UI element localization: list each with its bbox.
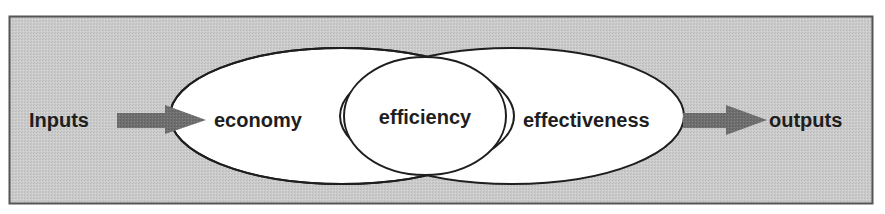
- efficiency-label: efficiency: [379, 106, 472, 128]
- outputs-label: outputs: [769, 109, 842, 131]
- economy-label: economy: [214, 109, 303, 131]
- effectiveness-label: effectiveness: [523, 109, 650, 131]
- inputs-label: Inputs: [29, 109, 89, 131]
- economy-efficiency-effectiveness-diagram: Inputs economy efficiency effectiveness …: [0, 0, 885, 214]
